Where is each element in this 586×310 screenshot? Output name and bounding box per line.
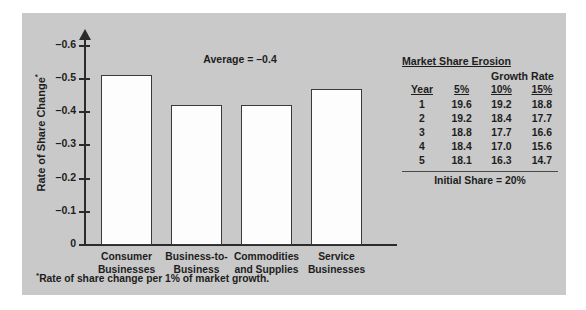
column-header-year: Year [402,84,442,97]
y-tick-2 [79,178,90,180]
cell-g15: 14.7 [522,153,562,167]
table-header-row: Year 5% 10% 15% [402,84,562,97]
x-category-label-service-businesses: Service Businesses [301,251,372,276]
table-row: 4 18.4 17.0 15.6 [402,139,562,153]
average-annotation: Average = –0.4 [170,53,310,65]
table-row: 3 18.8 17.7 16.6 [402,125,562,139]
cell-g10: 18.4 [481,111,521,125]
bar-service-businesses [311,89,362,245]
y-axis-line [84,39,86,246]
y-tick-4 [79,111,90,113]
cell-year: 4 [402,139,442,153]
table-group-header: Growth Rate [402,70,562,82]
table-row: 1 19.6 19.2 18.8 [402,97,562,111]
y-tick-label-0: 0 [30,237,76,249]
category-line-1: Consumer [91,251,162,264]
category-line-1: Service [301,251,372,264]
figure-panel: 0 –0.1 –0.2 –0.3 –0.4 –0.5 –0.6 Rate of … [22,13,566,295]
cell-g15: 16.6 [522,125,562,139]
market-share-erosion-table: Market Share Erosion Growth Rate Year 5%… [402,55,562,186]
y-axis-title-footnote-marker: * [33,74,42,77]
cell-g15: 15.6 [522,139,562,153]
cell-g5: 19.6 [442,97,481,111]
cell-g5: 19.2 [442,111,481,125]
cell-g10: 16.3 [481,153,521,167]
y-tick-5 [79,78,90,80]
cell-g15: 18.8 [522,97,562,111]
y-tick-3 [79,144,90,146]
cell-year: 3 [402,125,442,139]
y-axis-title-text: Rate of Share Change [35,77,47,191]
y-tick-1 [79,211,90,213]
table-footer-initial-share: Initial Share = 20% [402,175,558,186]
y-tick-0 [79,244,90,246]
bar-commodities-and-supplies [241,105,292,245]
cell-g10: 17.7 [481,125,521,139]
cell-year: 2 [402,111,442,125]
table-divider [402,171,558,172]
footnote-text: Rate of share change per 1% of market gr… [39,273,269,284]
column-header-15pct: 15% [522,84,562,97]
table-row: 5 18.1 16.3 14.7 [402,153,562,167]
bar-chart-plot: 0 –0.1 –0.2 –0.3 –0.4 –0.5 –0.6 Rate of … [22,13,412,295]
chart-footnote: *Rate of share change per 1% of market g… [36,271,269,284]
table-row: 2 19.2 18.4 17.7 [402,111,562,125]
erosion-data-table: Year 5% 10% 15% 1 19.6 19.2 18.8 2 19.2 … [402,84,562,167]
category-line-1: Commodities [229,251,304,264]
y-tick-label-6: –0.6 [30,38,76,50]
y-tick-6 [79,45,90,47]
table-title: Market Share Erosion [402,55,562,67]
cell-g5: 18.1 [442,153,481,167]
cell-g10: 19.2 [481,97,521,111]
bar-business-to-business [171,105,222,245]
cell-g5: 18.4 [442,139,481,153]
column-header-10pct: 10% [481,84,521,97]
category-line-2: Businesses [301,264,372,277]
column-header-5pct: 5% [442,84,481,97]
cell-g15: 17.7 [522,111,562,125]
y-axis-title: Rate of Share Change* [33,53,47,213]
cell-year: 1 [402,97,442,111]
cell-g10: 17.0 [481,139,521,153]
cell-g5: 18.8 [442,125,481,139]
bar-consumer-businesses [101,75,152,245]
cell-year: 5 [402,153,442,167]
category-line-1: Business-to- [161,251,232,264]
